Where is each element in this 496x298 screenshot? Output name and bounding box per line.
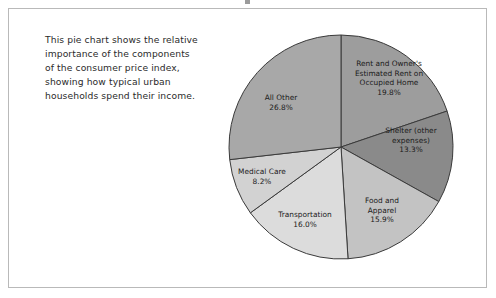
pie-slice-label-line: expenses) [392, 136, 430, 145]
pie-slice-label-line: Food and [365, 196, 399, 205]
pie-slice-label-line: All Other [265, 93, 298, 102]
pie-slice-label-line: 8.2% [253, 177, 272, 186]
pie-slice-label-line: Shelter (other [385, 126, 437, 135]
pie-chart: Rent and Owner'sEstimated Rent onOccupie… [0, 0, 496, 298]
pie-slice-label-line: Occupied Home [360, 78, 419, 87]
pie-slice-label-line: 19.8% [377, 88, 400, 97]
pie-slice-label-line: 26.8% [269, 103, 292, 112]
pie-slice-label-line: Medical Care [238, 167, 286, 176]
pie-slice-label-line: Rent and Owner's [356, 59, 422, 68]
pie-slice-label-line: Estimated Rent on [355, 69, 423, 78]
figure-canvas: This pie chart shows the relative import… [0, 0, 496, 298]
pie-slice-label-line: 16.0% [293, 220, 316, 229]
pie-slice-label-line: Transportation [277, 210, 332, 219]
pie-slice-label-line: Apparel [368, 206, 396, 215]
pie-slice-label-line: 15.9% [370, 215, 393, 224]
pie-slice-label-line: 13.3% [399, 145, 422, 154]
